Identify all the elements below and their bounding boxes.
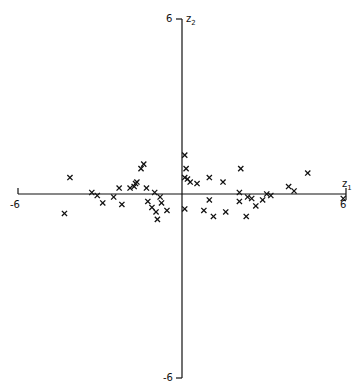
- x-marker: [194, 181, 199, 186]
- y-max-label: 6: [166, 13, 172, 24]
- x-marker: [62, 211, 67, 216]
- x-marker: [100, 200, 105, 205]
- x-marker: [253, 203, 258, 208]
- x-marker: [119, 202, 124, 207]
- x-marker: [238, 166, 243, 171]
- x-marker: [211, 214, 216, 219]
- x-marker: [158, 194, 163, 199]
- x-marker: [182, 206, 187, 211]
- x-min-label: -6: [10, 199, 20, 210]
- x-marker: [117, 185, 122, 190]
- x-marker: [138, 166, 143, 171]
- scatter-plot: -6 6 6 -6 z2 z1: [0, 0, 363, 385]
- x-marker: [244, 214, 249, 219]
- x-marker: [207, 175, 212, 180]
- data-markers: [62, 153, 346, 223]
- x-marker: [155, 217, 160, 222]
- x-marker: [223, 209, 228, 214]
- x-marker: [305, 170, 310, 175]
- x-marker: [260, 197, 265, 202]
- x-marker: [134, 179, 139, 184]
- x-marker: [207, 197, 212, 202]
- x-marker: [291, 188, 296, 193]
- y-axis-title: z2: [186, 13, 196, 27]
- x-marker: [184, 166, 189, 171]
- x-marker: [182, 153, 187, 158]
- y-min-label: -6: [163, 372, 173, 383]
- x-marker: [159, 200, 164, 205]
- x-marker: [145, 199, 150, 204]
- x-marker: [153, 209, 158, 214]
- x-marker: [67, 175, 72, 180]
- x-axis-title: z1: [342, 178, 352, 192]
- y-axis: [176, 19, 182, 378]
- x-marker: [188, 179, 193, 184]
- x-marker: [237, 199, 242, 204]
- x-marker: [164, 208, 169, 213]
- x-marker: [141, 161, 146, 166]
- x-marker: [111, 194, 116, 199]
- x-marker: [201, 208, 206, 213]
- x-marker: [144, 185, 149, 190]
- x-marker: [220, 179, 225, 184]
- x-marker: [286, 184, 291, 189]
